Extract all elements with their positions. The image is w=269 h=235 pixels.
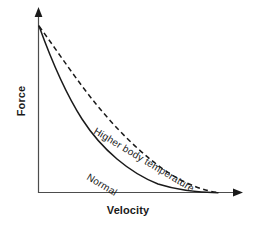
y-axis-arrow-icon [35, 7, 43, 17]
chart-canvas: Higher body temperature Normal [0, 0, 269, 235]
curve-normal [39, 26, 218, 193]
x-axis-label: Velocity [88, 204, 168, 216]
y-axis-label: Force [15, 84, 27, 118]
force-velocity-chart: Higher body temperature Normal Force Vel… [0, 0, 269, 235]
x-axis-arrow-icon [233, 188, 243, 196]
curve-label-normal: Normal [85, 171, 119, 198]
y-axis [35, 7, 43, 193]
